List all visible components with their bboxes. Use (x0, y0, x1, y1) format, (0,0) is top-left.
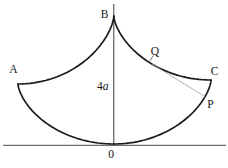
label-axis-length: 4a (97, 80, 109, 92)
label-point-q: Q (151, 45, 160, 57)
axis-length-variable: a (103, 80, 109, 92)
label-point-a: A (9, 63, 18, 75)
label-point-b: B (101, 8, 109, 20)
figure-container: A B C Q P 0 4a (0, 0, 228, 168)
label-point-p: P (207, 98, 213, 110)
label-origin: 0 (108, 148, 114, 160)
label-point-c: C (211, 65, 219, 77)
figure-canvas: A B C Q P 0 4a (0, 0, 228, 168)
